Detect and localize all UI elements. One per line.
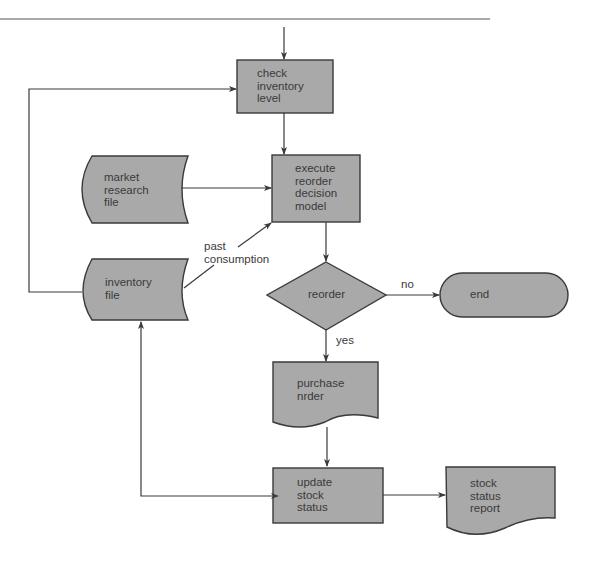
- loop-update-to-inventory: [141, 322, 272, 496]
- past-consumption-label: past consumption: [204, 240, 269, 265]
- check-inventory-label: check inventory level: [257, 67, 304, 105]
- yes-label: yes: [336, 334, 354, 347]
- reorder-decision-label: reorder: [308, 288, 345, 301]
- inventory-file-label: inventory file: [105, 276, 152, 301]
- purchase-order-label: purchase nrder: [297, 377, 344, 402]
- end-terminator: [440, 273, 568, 317]
- market-research-file-label: market research file: [104, 171, 149, 209]
- execute-model-label: execute reorder decision model: [295, 162, 337, 212]
- update-stock-status-label: update stock status: [297, 476, 332, 514]
- stock-status-report-label: stock status report: [470, 477, 501, 515]
- arrow-inventory-to-execute: [184, 265, 214, 288]
- no-label: no: [401, 278, 414, 291]
- end-label: end: [470, 288, 489, 301]
